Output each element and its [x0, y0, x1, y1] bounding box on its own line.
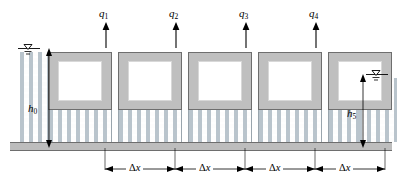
dimension-symbol-4: Δ — [339, 162, 346, 173]
recharge-label-q4-sub: 4 — [315, 12, 319, 21]
dimension-label-dx1: Δx — [126, 163, 143, 174]
head-label-h0-text: h — [28, 102, 34, 114]
head-label-h0: h0 — [28, 103, 37, 114]
recharge-arrow-q2-icon — [170, 22, 182, 48]
dimension-label-dx4: Δx — [336, 163, 353, 174]
recharge-label-q3: q3 — [239, 8, 248, 19]
dimension-variable-3: x — [276, 162, 281, 173]
recharge-arrow-q4-icon — [310, 22, 322, 48]
cell-interior-1 — [58, 61, 102, 101]
cell-box-4 — [258, 52, 322, 110]
dimension-label-dx3: Δx — [266, 163, 283, 174]
head-label-h5-text: h — [347, 107, 353, 119]
recharge-label-q1-sub: 1 — [105, 12, 109, 21]
head-label-h0-sub: 0 — [34, 107, 38, 116]
cell-interior-2 — [128, 61, 172, 101]
recharge-label-q3-sub: 3 — [245, 12, 249, 21]
dimension-variable-1: x — [136, 162, 141, 173]
head-label-h5: h5 — [347, 108, 356, 119]
recharge-label-q2-text: q — [169, 7, 175, 19]
head-dimension-right — [357, 74, 369, 148]
head-dimension-left — [43, 48, 55, 148]
recharge-arrow-q3-icon — [240, 22, 252, 48]
recharge-label-q3-text: q — [239, 7, 245, 19]
dimension-label-dx2: Δx — [196, 163, 213, 174]
dimension-symbol-3: Δ — [269, 162, 276, 173]
cell-box-2 — [118, 52, 182, 110]
recharge-label-q4-text: q — [309, 7, 315, 19]
water-table-left-icon — [18, 43, 40, 57]
cell-interior-3 — [198, 61, 242, 101]
dimension-variable-4: x — [346, 162, 351, 173]
recharge-label-q2: q2 — [169, 8, 178, 19]
head-label-h5-sub: 5 — [353, 112, 357, 121]
recharge-label-q1-text: q — [99, 7, 105, 19]
dimension-symbol-2: Δ — [199, 162, 206, 173]
recharge-label-q2-sub: 2 — [175, 12, 179, 21]
groundwater-finite-difference-figure: q1 q2 q3 q4 h0 — [0, 0, 397, 184]
recharge-label-q4: q4 — [309, 8, 318, 19]
dimension-variable-2: x — [206, 162, 211, 173]
recharge-label-q1: q1 — [99, 8, 108, 19]
cell-box-3 — [188, 52, 252, 110]
cell-interior-4 — [268, 61, 312, 101]
water-table-right-icon — [366, 69, 388, 83]
recharge-arrow-q1-icon — [100, 22, 112, 48]
cell-box-1 — [48, 52, 112, 110]
dimension-symbol-1: Δ — [129, 162, 136, 173]
